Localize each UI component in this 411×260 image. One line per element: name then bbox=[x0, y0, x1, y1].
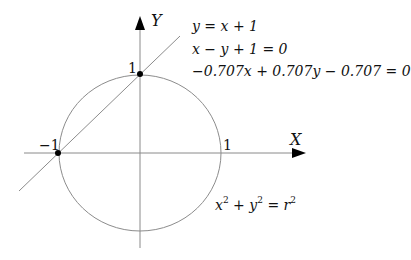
equation-circle: x2 + y2 = r2 bbox=[215, 196, 296, 212]
circle-eq-exp-r: 2 bbox=[290, 195, 296, 205]
point-0-1 bbox=[137, 71, 143, 77]
circle-eq-y: y bbox=[249, 197, 257, 213]
x-tick-neg1: −1 bbox=[39, 138, 60, 152]
x-axis-label: X bbox=[290, 132, 301, 148]
circle-eq-equals: = bbox=[263, 197, 284, 213]
equation-slope-form: y = x + 1 bbox=[192, 19, 258, 33]
circle-eq-plus: + bbox=[229, 197, 250, 213]
line-y-eq-x-plus-1 bbox=[19, 36, 180, 191]
y-axis-arrow-icon bbox=[135, 16, 145, 30]
equation-general-form: x − y + 1 = 0 bbox=[192, 42, 288, 56]
x-tick-1: 1 bbox=[223, 138, 232, 152]
y-tick-1: 1 bbox=[128, 61, 137, 75]
circle-eq-x: x bbox=[215, 197, 223, 213]
y-axis-label: Y bbox=[151, 13, 162, 29]
x-axis-arrow-icon bbox=[292, 148, 306, 158]
equation-normalized-form: −0.707x + 0.707y − 0.707 = 0 bbox=[192, 64, 411, 78]
